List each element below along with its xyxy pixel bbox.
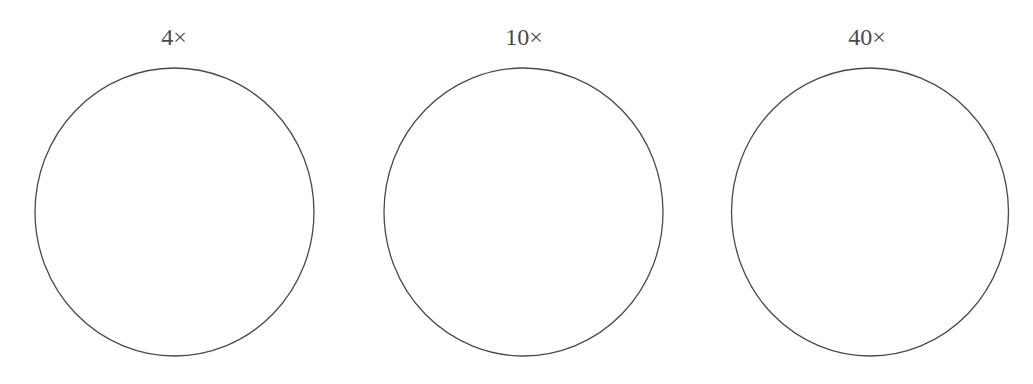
- field-of-view-40x-circle: [732, 68, 1009, 356]
- field-of-view-circles: [0, 0, 1033, 384]
- field-of-view-10x-circle: [384, 68, 663, 356]
- field-of-view-4x-circle: [35, 68, 314, 356]
